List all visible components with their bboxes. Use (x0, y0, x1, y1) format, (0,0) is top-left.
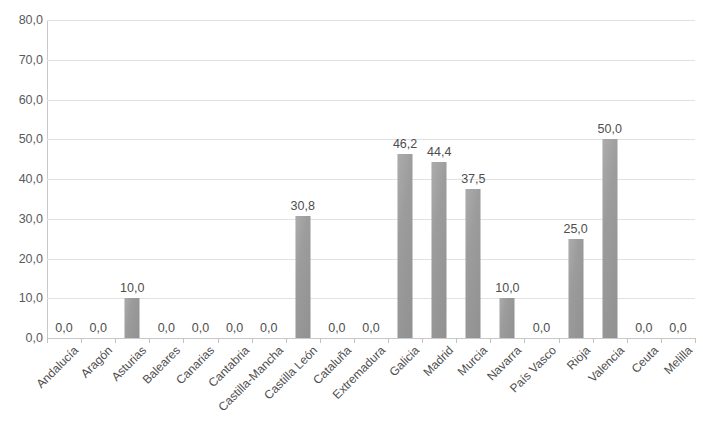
y-axis-tick-label: 20,0 (1, 253, 43, 265)
bar-slot: 0,0 (626, 20, 662, 338)
gridline-0-0 (47, 338, 695, 339)
bar-slot: 0,0 (217, 20, 253, 338)
x-axis-category-labels: AndalucíaAragónAsturiasBalearesCanariasC… (47, 344, 695, 438)
x-axis-tick (183, 338, 184, 343)
x-axis-tick (490, 338, 491, 343)
x-axis-category-label: Madrid (421, 344, 456, 379)
x-axis-tick (218, 338, 219, 343)
plot-area: 0,00,010,00,00,00,00,030,80,00,046,244,4… (47, 20, 695, 338)
bar-slot: 46,2 (387, 20, 423, 338)
x-axis-tick (286, 338, 287, 343)
x-axis-tick (47, 338, 48, 343)
bar-slot: 10,0 (489, 20, 525, 338)
x-axis-tick (524, 338, 525, 343)
x-axis-category-label-wrap: Melilla (662, 344, 695, 377)
bar-slot: 0,0 (319, 20, 355, 338)
x-axis-category-label-wrap: Madrid (421, 344, 456, 379)
bar-slot: 30,8 (285, 20, 321, 338)
bar-slot: 0,0 (148, 20, 184, 338)
bar[interactable] (602, 139, 617, 338)
bar-chart: 80,070,060,050,040,030,020,010,00,0 0,00… (0, 0, 703, 438)
y-axis-tick-label: 50,0 (1, 133, 43, 145)
x-axis-tick (252, 338, 253, 343)
y-axis-tick-label: 0,0 (1, 332, 43, 344)
bar-slot: 0,0 (182, 20, 218, 338)
x-axis-tick (81, 338, 82, 343)
x-axis-tick (695, 338, 696, 343)
x-axis-category-label: Ceuta (629, 344, 661, 376)
bar-slot: 0,0 (46, 20, 82, 338)
bar[interactable] (568, 239, 583, 338)
x-axis-tick (388, 338, 389, 343)
x-axis-category-label: Melilla (662, 344, 695, 377)
x-axis-tick (320, 338, 321, 343)
x-axis-category-label: Valencia (586, 344, 627, 385)
x-axis-tick (593, 338, 594, 343)
bar[interactable] (500, 298, 515, 338)
y-axis-tick-label: 30,0 (1, 213, 43, 225)
x-axis-category-label: Galicia (387, 344, 422, 379)
x-axis-tick (456, 338, 457, 343)
bar-slot: 25,0 (558, 20, 594, 338)
bar[interactable] (295, 216, 310, 338)
bar[interactable] (466, 189, 481, 338)
bar[interactable] (398, 154, 413, 338)
bar[interactable] (125, 298, 140, 338)
bar[interactable] (432, 162, 447, 338)
bar-slot: 10,0 (114, 20, 150, 338)
x-axis-tick (627, 338, 628, 343)
x-axis-tick (422, 338, 423, 343)
y-axis-tick-label: 10,0 (1, 292, 43, 304)
x-axis-tick (354, 338, 355, 343)
y-axis-tick-label: 60,0 (1, 94, 43, 106)
bar-value-label: 0,0 (655, 322, 701, 335)
bar-slot: 0,0 (660, 20, 696, 338)
x-axis-tick (115, 338, 116, 343)
x-axis-tick (559, 338, 560, 343)
bar-slot: 0,0 (353, 20, 389, 338)
bar-slot: 0,0 (524, 20, 560, 338)
x-axis-category-label-wrap: Ceuta (629, 344, 661, 376)
y-axis-tick-label: 40,0 (1, 173, 43, 185)
y-axis-tick-labels: 80,070,060,050,040,030,020,010,00,0 (0, 0, 43, 438)
x-axis-tick (149, 338, 150, 343)
x-axis-category-label: Rioja (564, 344, 593, 373)
x-axis-category-label-wrap: Galicia (387, 344, 422, 379)
bar-slot: 50,0 (592, 20, 628, 338)
y-axis-tick-label: 80,0 (1, 14, 43, 26)
y-axis-tick-label: 70,0 (1, 54, 43, 66)
bar-slot: 0,0 (251, 20, 287, 338)
x-axis-category-label-wrap: Rioja (564, 344, 593, 373)
x-axis-tick (661, 338, 662, 343)
x-axis-category-label-wrap: Valencia (586, 344, 627, 385)
